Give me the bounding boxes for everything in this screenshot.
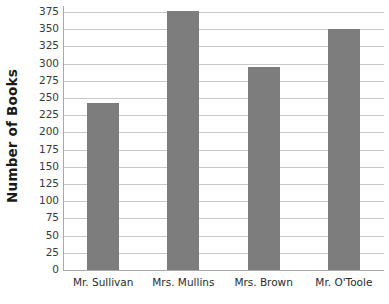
bar — [167, 11, 199, 270]
x-axis-tick-label: Mrs. Mullins — [143, 275, 223, 289]
y-axis-tick-label: 50 — [46, 230, 59, 241]
y-axis-tick-label: 175 — [39, 144, 59, 155]
x-axis-tick-label: Mr. O'Toole — [304, 275, 384, 289]
y-axis-tick-label: 150 — [39, 161, 59, 172]
y-axis-tick-label: 200 — [39, 126, 59, 137]
y-axis-tick-label: 325 — [39, 40, 59, 51]
y-axis-tick-labels: 3753503253002752502252001751501251007550… — [24, 0, 63, 280]
y-axis-tick-label: 250 — [39, 92, 59, 103]
y-axis-tick-label: 100 — [39, 195, 59, 206]
bar-chart: Number of Books 375350325300275250225200… — [0, 0, 389, 304]
y-axis-tick-label: 300 — [39, 58, 59, 69]
y-axis-tick-label: 375 — [39, 6, 59, 17]
y-axis-title-label: Number of Books — [4, 69, 20, 203]
x-axis-tick-label: Mrs. Brown — [224, 275, 304, 289]
y-axis-tick-label: 125 — [39, 178, 59, 189]
bar — [248, 67, 280, 270]
y-axis-tick-label: 25 — [46, 247, 59, 258]
y-axis-tick-label: 225 — [39, 109, 59, 120]
x-axis-tick-label: Mr. Sullivan — [63, 275, 143, 289]
x-axis-tick-labels: Mr. SullivanMrs. MullinsMrs. BrownMr. O'… — [63, 275, 384, 295]
y-axis-tick-label: 275 — [39, 75, 59, 86]
plot-area — [63, 6, 384, 271]
bar — [87, 103, 119, 270]
y-axis-tick-label: 350 — [39, 23, 59, 34]
bar — [328, 29, 360, 270]
y-axis-title: Number of Books — [0, 0, 24, 272]
bars-group — [63, 6, 384, 271]
y-axis-tick-label: 0 — [52, 264, 59, 275]
y-axis-tick-label: 75 — [46, 212, 59, 223]
